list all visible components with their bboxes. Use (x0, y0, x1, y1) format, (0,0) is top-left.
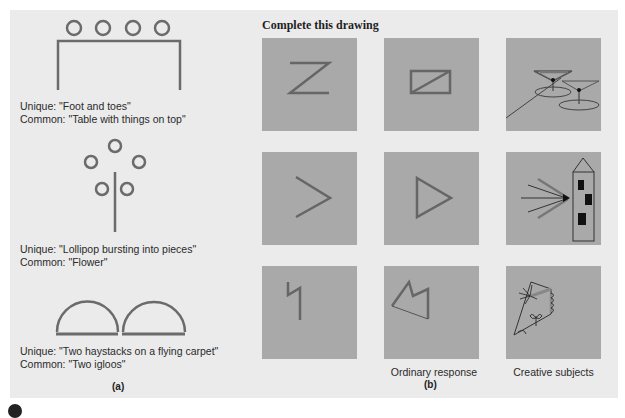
caption-unique: Unique: "Two haystacks on a flying carpe… (20, 345, 218, 358)
stimulus-box-chevron (262, 152, 357, 245)
stimulus-box-zigzag (262, 266, 357, 359)
stimulus-box-z (262, 38, 357, 131)
caption-common: Common: "Table with things on top" (20, 113, 186, 126)
rectangle-diagonal-icon (384, 38, 479, 131)
panel-b-title: Complete this drawing (262, 18, 379, 33)
zigzag-line-icon (262, 266, 357, 359)
caption-common: Common: "Flower" (20, 256, 196, 269)
abstract-figure-icon (506, 266, 601, 359)
creative-subjects-label: Creative subjects (506, 366, 601, 378)
caption-3: Unique: "Two haystacks on a flying carpe… (20, 345, 218, 371)
caption-1: Unique: "Foot and toes" Common: "Table w… (20, 100, 186, 126)
ordinary-response-label: Ordinary response (389, 366, 479, 378)
figure-number-badge-icon (8, 404, 22, 418)
igloos-drawing (56, 302, 185, 334)
caption-unique: Unique: "Foot and toes" (20, 100, 186, 113)
caption-unique: Unique: "Lollipop bursting into pieces" (20, 243, 196, 256)
cocktail-glasses-icon (506, 38, 601, 131)
creative-box-abstract (506, 266, 601, 359)
table-drawing (58, 21, 180, 90)
ordinary-box-triangle (384, 152, 479, 245)
polygon-icon (384, 266, 479, 359)
caption-common: Common: "Two igloos" (20, 358, 218, 371)
panel-a-label: (a) (112, 381, 124, 392)
z-shape-icon (262, 38, 357, 131)
flower-drawing (85, 140, 145, 232)
creative-box-glasses (506, 38, 601, 131)
ordinary-box-rectangle (384, 38, 479, 131)
panel-b-label: (b) (424, 379, 437, 390)
triangle-icon (384, 152, 479, 245)
ordinary-box-polygon (384, 266, 479, 359)
caption-2: Unique: "Lollipop bursting into pieces" … (20, 243, 196, 269)
creative-box-tower (506, 152, 601, 245)
chevron-icon (262, 152, 357, 245)
tower-lighthouse-icon (506, 152, 601, 245)
